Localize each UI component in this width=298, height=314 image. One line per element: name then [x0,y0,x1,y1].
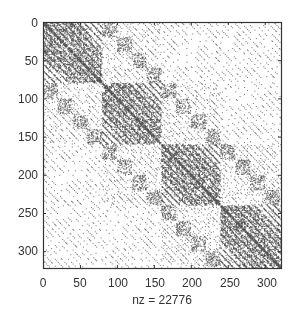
x-tick-150: 150 [140,277,170,289]
x-tick-200: 200 [177,277,207,289]
x-axis-label-nz-count: nz = 22776 [112,293,212,307]
x-tick-250: 250 [215,277,245,289]
spy-plot-figure: 0 50 100 150 200 250 300 0 50 100 150 20… [0,0,298,314]
y-tick-150: 150 [4,131,38,143]
y-tick-100: 100 [4,93,38,105]
sparsity-pattern-canvas [0,0,298,314]
x-tick-0: 0 [28,277,58,289]
y-tick-250: 250 [4,207,38,219]
x-tick-50: 50 [65,277,95,289]
x-tick-300: 300 [252,277,282,289]
y-tick-0: 0 [4,17,38,29]
x-tick-100: 100 [103,277,133,289]
y-tick-300: 300 [4,245,38,257]
y-tick-50: 50 [4,55,38,67]
y-tick-200: 200 [4,169,38,181]
